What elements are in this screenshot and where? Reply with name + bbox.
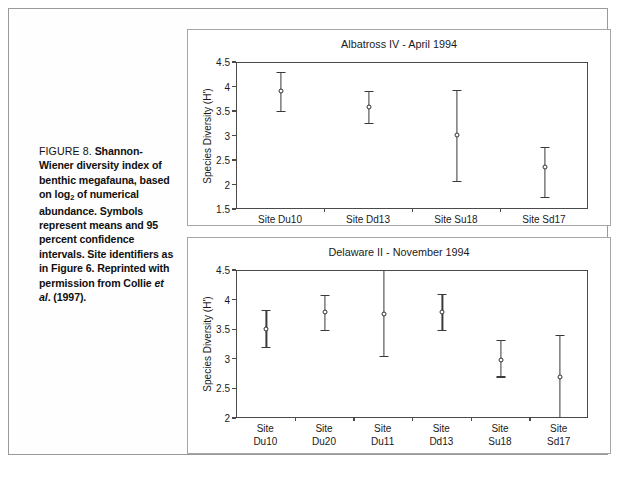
y-tick-mark bbox=[232, 299, 236, 300]
x-tick-mark bbox=[353, 417, 354, 421]
error-bar-cap-upper bbox=[497, 340, 506, 341]
y-tick-label: 3 bbox=[188, 130, 230, 141]
error-bar-cap-upper bbox=[365, 91, 374, 92]
data-point-marker bbox=[264, 327, 269, 332]
y-tick-mark bbox=[232, 358, 236, 359]
data-point-marker bbox=[499, 358, 504, 363]
error-bar-cap-lower bbox=[555, 417, 564, 418]
x-tick-mark bbox=[295, 417, 296, 421]
plot-area-delaware-ii bbox=[236, 270, 588, 418]
y-tick-label: 2.5 bbox=[188, 383, 230, 394]
error-bar-cap-lower bbox=[453, 181, 462, 182]
figure-caption-label: FIGURE 8. bbox=[39, 145, 92, 157]
y-tick-mark bbox=[232, 184, 236, 185]
error-bar-cap-upper bbox=[453, 90, 462, 91]
chart-title-albatross-iv: Albatross IV - April 1994 bbox=[188, 38, 610, 50]
plot-area-albatross-iv bbox=[236, 62, 588, 209]
error-bar-cap-lower bbox=[438, 330, 447, 331]
x-tick-label: SiteSd17 bbox=[547, 423, 570, 448]
x-tick-mark bbox=[324, 208, 325, 212]
x-tick-mark bbox=[500, 208, 501, 212]
y-tick-mark bbox=[232, 417, 236, 418]
x-tick-label: SiteSu18 bbox=[488, 423, 511, 448]
x-tick-mark bbox=[412, 208, 413, 212]
y-tick-mark bbox=[232, 61, 236, 62]
x-tick-label: SiteDu20 bbox=[312, 423, 336, 448]
y-tick-mark bbox=[232, 208, 236, 209]
x-tick-label: SiteDu11 bbox=[371, 423, 394, 448]
figure-caption: FIGURE 8. Shannon-Wiener diversity index… bbox=[39, 144, 174, 304]
error-bar-cap-lower bbox=[277, 111, 286, 112]
error-bar-cap-upper bbox=[541, 147, 550, 148]
error-bar-cap-upper bbox=[555, 335, 564, 336]
chart-panel-delaware-ii: Delaware II - November 1994 Species Dive… bbox=[187, 237, 611, 454]
x-tick-label: Site Dd13 bbox=[346, 214, 390, 227]
error-bar-cap-lower bbox=[262, 347, 271, 348]
y-tick-label: 3.5 bbox=[188, 324, 230, 335]
error-bar-cap-lower bbox=[379, 356, 388, 357]
x-tick-label: Site Su18 bbox=[434, 214, 477, 227]
y-tick-label: 3.5 bbox=[188, 106, 230, 117]
data-point-marker bbox=[323, 309, 328, 314]
y-tick-label: 2 bbox=[188, 413, 230, 424]
data-point-marker bbox=[279, 89, 284, 94]
error-bar-cap-upper bbox=[277, 72, 286, 73]
error-bar-cap-lower bbox=[497, 376, 506, 377]
x-tick-label: Site Du10 bbox=[258, 214, 302, 227]
y-tick-label: 4 bbox=[188, 81, 230, 92]
y-tick-mark bbox=[232, 329, 236, 330]
x-tick-label: SiteDu10 bbox=[253, 423, 277, 448]
y-tick-mark bbox=[232, 135, 236, 136]
x-tick-mark bbox=[529, 417, 530, 421]
data-point-marker bbox=[557, 374, 562, 379]
y-tick-mark bbox=[232, 86, 236, 87]
figure-caption-text: Shannon-Wiener diversity index of benthi… bbox=[39, 145, 173, 303]
x-tick-label: Site Sd17 bbox=[522, 214, 565, 227]
y-tick-mark bbox=[232, 269, 236, 270]
error-bar bbox=[544, 147, 545, 197]
error-bar-cap-upper bbox=[321, 295, 330, 296]
y-tick-label: 4.5 bbox=[188, 265, 230, 276]
figure-page-frame: FIGURE 8. Shannon-Wiener diversity index… bbox=[8, 8, 608, 455]
y-axis-title-delaware-ii: Species Diversity (H') bbox=[202, 296, 213, 391]
chart-title-delaware-ii: Delaware II - November 1994 bbox=[188, 246, 610, 258]
y-tick-label: 1.5 bbox=[188, 204, 230, 215]
chart-panel-albatross-iv: Albatross IV - April 1994 Species Divers… bbox=[187, 29, 611, 226]
error-bar-cap-upper bbox=[262, 310, 271, 311]
y-tick-label: 2.5 bbox=[188, 155, 230, 166]
data-point-marker bbox=[367, 104, 372, 109]
y-tick-label: 4 bbox=[188, 294, 230, 305]
x-tick-mark bbox=[471, 417, 472, 421]
y-tick-mark bbox=[232, 110, 236, 111]
data-point-marker bbox=[455, 132, 460, 137]
x-tick-mark bbox=[412, 417, 413, 421]
y-tick-label: 3 bbox=[188, 353, 230, 364]
y-tick-mark bbox=[232, 159, 236, 160]
y-tick-label: 4.5 bbox=[188, 57, 230, 68]
y-tick-mark bbox=[232, 388, 236, 389]
error-bar-cap-lower bbox=[541, 197, 550, 198]
error-bar-cap-upper bbox=[438, 294, 447, 295]
data-point-marker bbox=[543, 165, 548, 170]
data-point-marker bbox=[440, 310, 445, 315]
error-bar-cap-lower bbox=[321, 330, 330, 331]
data-point-marker bbox=[381, 312, 386, 317]
x-tick-label: SiteDd13 bbox=[429, 423, 453, 448]
error-bar-cap-lower bbox=[365, 123, 374, 124]
y-tick-label: 2 bbox=[188, 179, 230, 190]
